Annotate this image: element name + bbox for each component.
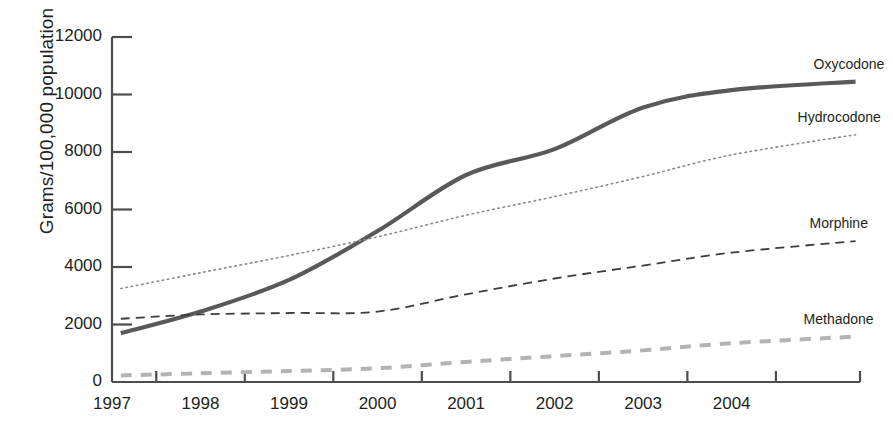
series-line-morphine	[121, 241, 856, 319]
series-label-oxycodone: Oxycodone	[814, 56, 885, 72]
x-axis-tick-label: 2001	[421, 394, 511, 414]
opioid-distribution-line-chart: Grams/100,000 population 020004000600080…	[0, 0, 893, 434]
series-label-hydrocodone: Hydrocodone	[798, 109, 881, 125]
x-axis-tick-label: 1999	[244, 394, 334, 414]
x-axis-tick-label: 2003	[598, 394, 688, 414]
x-axis-tick-label: 2000	[333, 394, 423, 414]
y-axis-tick-label: 12000	[20, 26, 102, 46]
y-axis-tick-label: 8000	[20, 141, 102, 161]
y-axis-tick-label: 4000	[20, 256, 102, 276]
series-label-methadone: Methadone	[804, 311, 874, 327]
series-line-hydrocodone	[121, 135, 856, 289]
y-axis-tick-label: 10000	[20, 84, 102, 104]
series-line-oxycodone	[121, 82, 856, 334]
plot-canvas	[0, 0, 893, 434]
y-axis-tick-label: 2000	[20, 314, 102, 334]
x-axis-tick-label: 1998	[156, 394, 246, 414]
series-label-morphine: Morphine	[810, 215, 868, 231]
x-axis-tick-label: 1997	[67, 394, 157, 414]
series-group	[121, 82, 856, 376]
y-axis-tick-label: 0	[20, 371, 102, 391]
series-line-methadone	[121, 337, 856, 376]
y-axis-tick-label: 6000	[20, 199, 102, 219]
x-axis-tick-label: 2002	[510, 394, 600, 414]
x-axis-tick-label: 2004	[687, 394, 777, 414]
